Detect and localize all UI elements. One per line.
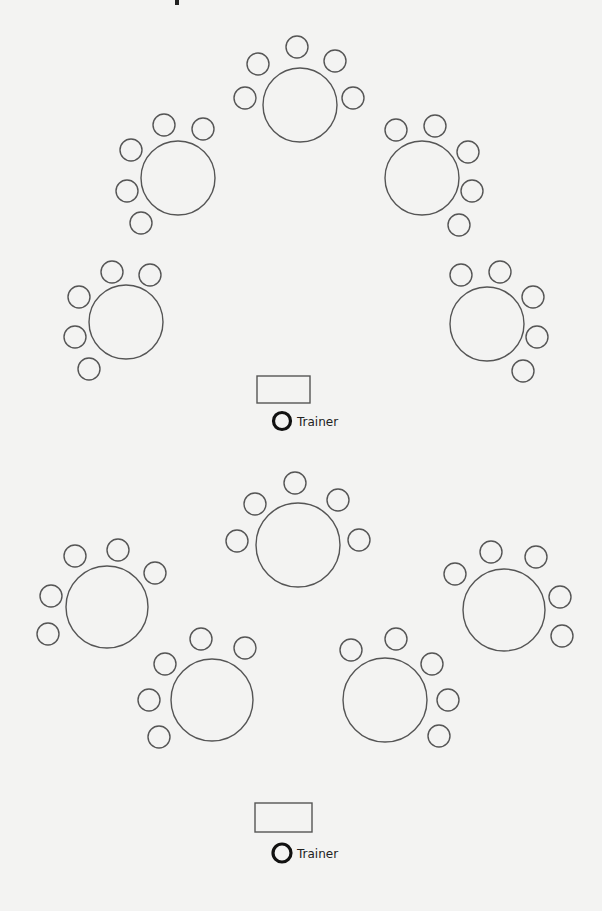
chair (444, 563, 466, 585)
trainer-position-icon (274, 413, 291, 430)
chair (342, 87, 364, 109)
chair (78, 358, 100, 380)
chair (284, 472, 306, 494)
chair (244, 493, 266, 515)
trainer-label: Trainer (296, 415, 338, 429)
chair (37, 623, 59, 645)
chair (424, 115, 446, 137)
chair (385, 628, 407, 650)
table-group-3 (385, 115, 483, 236)
chair (144, 562, 166, 584)
upper-room: Trainer (64, 36, 548, 430)
chair (348, 529, 370, 551)
round-table (89, 285, 163, 359)
round-table (385, 141, 459, 215)
chair (450, 264, 472, 286)
chair (340, 639, 362, 661)
table-group-5 (450, 261, 548, 382)
chair (234, 637, 256, 659)
chair (286, 36, 308, 58)
chair (64, 545, 86, 567)
round-table (66, 566, 148, 648)
chair (512, 360, 534, 382)
chair (457, 141, 479, 163)
trainer-label: Trainer (296, 847, 338, 861)
cropped-title-fragment (175, 0, 179, 5)
round-table (263, 68, 337, 142)
chair (327, 489, 349, 511)
round-table (450, 287, 524, 361)
chair (461, 180, 483, 202)
table-group-6 (226, 472, 370, 587)
chair (549, 586, 571, 608)
chair (247, 53, 269, 75)
table-group-9 (138, 628, 256, 748)
seating-diagram: TrainerTrainer (0, 0, 602, 911)
chair (116, 180, 138, 202)
chair (148, 726, 170, 748)
chair (448, 214, 470, 236)
chair (421, 653, 443, 675)
chair (68, 286, 90, 308)
chair (40, 585, 62, 607)
round-table (343, 658, 427, 742)
chair (489, 261, 511, 283)
chair (428, 725, 450, 747)
chair (139, 264, 161, 286)
round-table (256, 503, 340, 587)
round-table (141, 141, 215, 215)
chair (526, 326, 548, 348)
chair (130, 212, 152, 234)
chair (192, 118, 214, 140)
round-table (463, 569, 545, 651)
trainer-desk (255, 803, 312, 832)
trainer-position-icon (273, 844, 291, 862)
chair (154, 653, 176, 675)
table-group-1 (234, 36, 364, 142)
table-group-7 (37, 539, 166, 648)
chair (190, 628, 212, 650)
chair (64, 326, 86, 348)
chair (437, 689, 459, 711)
table-group-10 (340, 628, 459, 747)
table-group-4 (64, 261, 163, 380)
chair (525, 546, 547, 568)
chair (551, 625, 573, 647)
chair (138, 689, 160, 711)
trainer-desk (257, 376, 310, 403)
round-table (171, 659, 253, 741)
chair (234, 87, 256, 109)
chair (153, 114, 175, 136)
chair (522, 286, 544, 308)
chair (385, 119, 407, 141)
chair (480, 541, 502, 563)
chair (324, 50, 346, 72)
chair (226, 530, 248, 552)
sections-layer: TrainerTrainer (37, 36, 573, 862)
chair (101, 261, 123, 283)
table-group-8 (444, 541, 573, 651)
lower-room: Trainer (37, 472, 573, 862)
chair (107, 539, 129, 561)
seating-layout-svg: TrainerTrainer (0, 0, 602, 911)
chair (120, 139, 142, 161)
table-group-2 (116, 114, 215, 234)
